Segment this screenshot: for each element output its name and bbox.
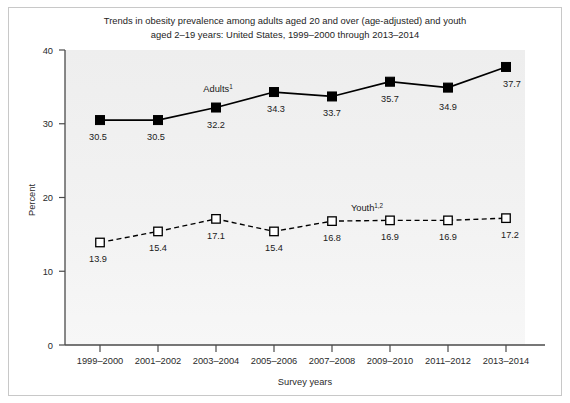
adults-label-superscript: 1 xyxy=(229,83,233,90)
x-tick-label-0: 1999–2000 xyxy=(77,356,124,366)
x-tick-label-7: 2013–2014 xyxy=(483,356,530,366)
series-annotation-youth: Youth1,2 xyxy=(351,202,384,214)
x-tick-label-1: 2001–2002 xyxy=(135,356,182,366)
adults-series-label: Adults1 xyxy=(203,83,233,95)
adults-label-text: Adults xyxy=(203,84,229,94)
data-point-label: 17.2 xyxy=(501,230,519,240)
x-axis: 1999–2000 2001–2002 2003–2004 2005–2006 … xyxy=(65,345,545,387)
y-axis-ticks xyxy=(59,50,65,345)
data-point-marker xyxy=(96,238,105,247)
y-tick-label-10: 10 xyxy=(43,267,53,277)
y-tick-label-0: 0 xyxy=(48,341,53,351)
data-point-marker xyxy=(212,103,221,112)
data-point-label: 16.8 xyxy=(323,233,341,243)
x-tick-label-4: 2007–2008 xyxy=(309,356,356,366)
data-point-label: 15.4 xyxy=(149,243,167,253)
data-point-marker xyxy=(444,83,453,92)
chart-canvas: 40 30 20 10 0 Percent 1999–2000 2001–200… xyxy=(0,0,570,403)
data-point-marker xyxy=(386,77,395,86)
x-axis-title: Survey years xyxy=(278,377,333,387)
y-axis-title: Percent xyxy=(27,184,37,216)
data-point-label: 13.9 xyxy=(89,254,107,264)
data-point-marker xyxy=(502,62,511,71)
x-tick-label-3: 2005–2006 xyxy=(251,356,298,366)
data-point-marker xyxy=(154,227,163,236)
data-point-label: 32.2 xyxy=(207,120,225,130)
y-axis: 40 30 20 10 0 Percent xyxy=(27,46,65,351)
youth-series-label: Youth1,2 xyxy=(351,202,384,214)
y-tick-label-30: 30 xyxy=(43,119,53,129)
x-axis-ticks xyxy=(100,345,506,352)
series-annotation-adults: Adults1 xyxy=(203,83,233,95)
data-point-marker xyxy=(270,227,279,236)
youth-label-superscript: 1,2 xyxy=(374,202,383,209)
data-point-label: 35.7 xyxy=(381,94,399,104)
series-line-adults xyxy=(100,67,506,120)
data-point-label: 37.7 xyxy=(503,79,521,89)
data-point-marker xyxy=(154,116,163,125)
y-tick-label-40: 40 xyxy=(43,46,53,56)
data-point-label: 15.4 xyxy=(265,243,283,253)
data-point-label: 34.9 xyxy=(439,102,457,112)
youth-label-text: Youth xyxy=(351,203,374,213)
data-point-label: 30.5 xyxy=(147,132,165,142)
x-tick-label-2: 2003–2004 xyxy=(193,356,240,366)
series-adults: 30.530.532.234.333.735.734.937.7 xyxy=(89,62,521,142)
chart-figure: Trends in obesity prevalence among adult… xyxy=(0,0,570,403)
series-youth: 13.915.417.115.416.816.916.917.2 xyxy=(89,214,519,265)
data-point-marker xyxy=(386,216,395,225)
data-point-marker xyxy=(212,215,221,224)
data-point-marker xyxy=(96,116,105,125)
x-tick-label-6: 2011–2012 xyxy=(425,356,471,366)
data-point-label: 34.3 xyxy=(267,104,285,114)
data-point-marker xyxy=(328,217,337,226)
data-point-label: 16.9 xyxy=(439,232,457,242)
data-point-marker xyxy=(502,214,511,223)
data-point-marker xyxy=(270,88,279,97)
data-series-layer: 30.530.532.234.333.735.734.937.713.915.4… xyxy=(89,62,521,264)
data-point-marker xyxy=(444,216,453,225)
data-point-label: 16.9 xyxy=(381,232,399,242)
data-point-marker xyxy=(328,92,337,101)
y-tick-label-20: 20 xyxy=(43,193,53,203)
x-tick-label-5: 2009–2010 xyxy=(367,356,414,366)
data-point-label: 17.1 xyxy=(207,231,225,241)
data-point-label: 33.7 xyxy=(323,108,341,118)
data-point-label: 30.5 xyxy=(89,132,107,142)
